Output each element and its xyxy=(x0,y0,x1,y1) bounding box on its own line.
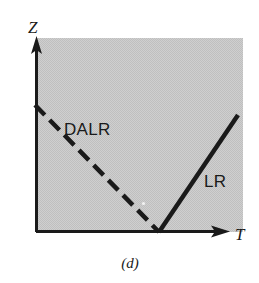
y-axis-label: Z xyxy=(28,18,38,37)
x-axis-label: T xyxy=(235,225,246,244)
temperature-height-diagram: Z T DALR LR (d) xyxy=(0,0,259,283)
figure-caption: (d) xyxy=(121,255,139,272)
dalr-label: DALR xyxy=(64,120,111,139)
scan-speck xyxy=(142,202,145,205)
figure-container: Z T DALR LR (d) xyxy=(0,0,259,283)
lr-label: LR xyxy=(204,172,226,191)
